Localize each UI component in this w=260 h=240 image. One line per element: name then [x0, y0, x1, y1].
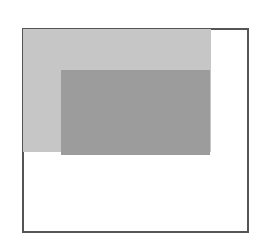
inner-region-rect: [61, 70, 210, 155]
